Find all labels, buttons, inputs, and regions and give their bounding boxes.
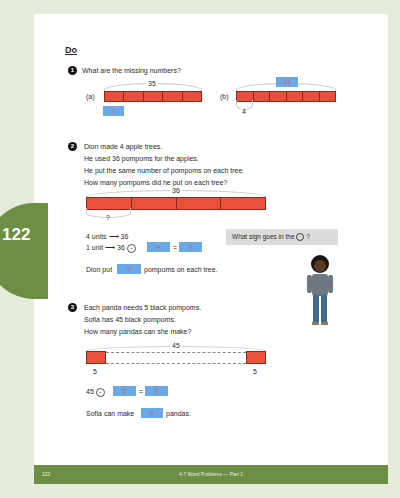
q3-line-3: How many pandas can she make? [84, 327, 191, 336]
q3-dashed-top [106, 352, 246, 353]
child-character-illustration [302, 252, 338, 328]
footer-chapter-title: 4-7 Word Problems — Part 1 [34, 471, 388, 477]
q3-sign-circle[interactable]: ÷ [96, 388, 105, 397]
q2-line-2: He used 36 pompoms for the apples. [84, 154, 199, 163]
page-footer: 122 4-7 Word Problems — Part 1 [34, 465, 388, 484]
page-number-tab-label: 122 [0, 225, 33, 245]
q2-answer-box[interactable]: 9 [117, 264, 141, 274]
q1-prompt: What are the missing numbers? [82, 66, 181, 75]
q3-bar-right-unit [246, 351, 266, 364]
q1b-answer-box[interactable]: 24 [276, 77, 298, 87]
q3-equals: = [139, 387, 143, 396]
q2-answer-prefix: Dion put [86, 265, 112, 274]
q3-divisor-box[interactable]: 5 [113, 386, 136, 396]
question-number-2: 2 [68, 142, 77, 151]
q2-sign-circle[interactable]: ÷ [127, 244, 136, 253]
q2-line-4: How many pompoms did he put on each tree… [84, 178, 227, 187]
q3-answer-box[interactable]: 9 [141, 408, 163, 418]
q3-answer-prefix: Sofia can make [86, 409, 134, 418]
q3-line-2: Sofia has 45 black pompoms. [84, 315, 176, 324]
q2-result-box[interactable]: 9 [179, 242, 202, 252]
q1a-bar-model [104, 91, 202, 102]
q2-answer-suffix: pompoms on each tree. [144, 265, 218, 274]
q2-total: 36 [170, 186, 182, 195]
q3-left-part: 5 [93, 367, 97, 376]
question-number-3: 3 [68, 303, 77, 312]
q2-line-3: He put the same number of pompoms on eac… [84, 166, 244, 175]
speech-bubble: What sign goes in the ? [226, 229, 338, 245]
q1a-answer-box[interactable]: 7 [103, 106, 124, 116]
q3-eq-left: 45 [86, 388, 94, 395]
q1b-part: 4 [242, 107, 246, 116]
q1a-label: (a) [86, 92, 95, 101]
q3-dashed-bottom [106, 363, 246, 364]
q1b-label: (b) [220, 92, 229, 101]
q3-total: 45 [170, 341, 182, 350]
q3-result-box[interactable]: 9 [145, 386, 168, 396]
q2-step-2-prefix: 1 unit ⟶ 36 [86, 244, 125, 251]
bubble-text: What sign goes in the [232, 233, 295, 240]
q2-line-1: Dion made 4 apple trees. [84, 142, 162, 151]
q2-equals: = [173, 243, 177, 252]
q3-right-part: 5 [253, 367, 257, 376]
bubble-suffix: ? [306, 233, 310, 240]
q2-divisor-box[interactable]: 4 [147, 242, 170, 252]
section-heading: Do [65, 46, 77, 55]
q2-step-2: 1 unit ⟶ 36 ÷ [86, 243, 136, 253]
q2-step-1: 4 units ⟶ 36 [86, 232, 128, 241]
q3-line-1: Each panda needs 5 black pompoms. [84, 303, 201, 312]
question-number-1: 1 [68, 66, 77, 75]
q1a-total: 35 [146, 79, 158, 88]
page-number-tab [0, 203, 48, 299]
q3-answer-suffix: pandas. [166, 409, 191, 418]
q3-bar-left-unit [86, 351, 106, 364]
q3-equation: 45 ÷ [86, 387, 105, 397]
q2-unknown: ? [106, 213, 110, 222]
circle-icon [296, 233, 304, 241]
